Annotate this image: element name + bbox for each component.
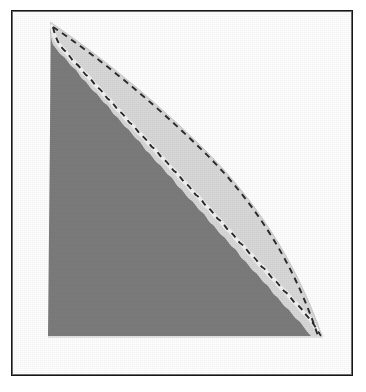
figure-root bbox=[0, 0, 366, 392]
figure-plot-area bbox=[0, 0, 366, 392]
shaded-region-diagram bbox=[0, 0, 366, 392]
